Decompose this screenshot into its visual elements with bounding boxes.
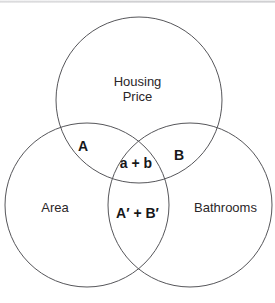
- set-label-housing-price-line2: Price: [0, 89, 275, 104]
- set-label-bathrooms: Bathrooms: [178, 200, 273, 215]
- set-label-housing-price-line1: Housing: [0, 74, 275, 89]
- venn-circles-group: [0, 0, 275, 303]
- set-label-area: Area: [0, 200, 110, 215]
- region-label-a: A: [72, 138, 94, 155]
- venn-diagram: Housing Price Area Bathrooms A B a + b A…: [0, 0, 275, 303]
- region-label-aprime-plus-bprime: A′ + B′: [95, 205, 180, 222]
- set-label-housing-price: Housing Price: [0, 74, 275, 105]
- region-label-a-plus-b: a + b: [96, 155, 176, 172]
